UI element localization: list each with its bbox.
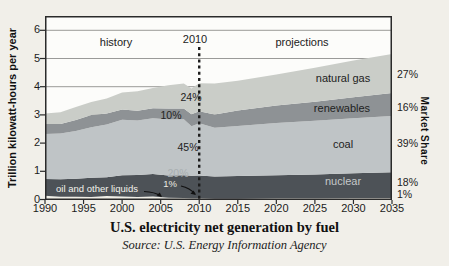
band-label-renewables: renewables [314, 103, 370, 114]
y-tick-label-2: 2 [24, 137, 40, 148]
band-label-nuclear: nuclear [325, 176, 361, 187]
divider-year-label: 2010 [183, 34, 207, 45]
chart-title: U.S. electricity net generation by fuel [0, 219, 449, 236]
chart-figure: Trillion kilowatt-hours per year history… [0, 0, 449, 266]
history-label: history [100, 37, 132, 48]
share-2010-nuclear: 20% [167, 168, 188, 179]
share-2035-natural-gas: 27% [397, 69, 418, 80]
x-tick-label-2005: 2005 [148, 203, 172, 214]
y-tick-label-6: 6 [24, 24, 40, 35]
band-label-coal: coal [333, 139, 353, 150]
y-tick-label-4: 4 [24, 81, 40, 92]
share-2035-renewables: 16% [397, 102, 418, 113]
y-tick-label-0: 0 [24, 194, 40, 205]
x-tick-label-2035: 2035 [380, 203, 404, 214]
share-2010-coal: 45% [177, 142, 198, 153]
share-2035-nuclear: 18% [397, 177, 418, 188]
y-tick-label-3: 3 [24, 109, 40, 120]
y-axis-title: Trillion kilowatt-hours per year [7, 28, 18, 188]
share-2035-coal: 39% [397, 138, 418, 149]
x-tick-label-1995: 1995 [71, 203, 95, 214]
right-axis-title: Market Share [419, 97, 429, 166]
projections-label: projections [275, 37, 328, 48]
share-2010-renewables: 10% [160, 110, 181, 121]
share-2010-natural-gas: 24% [180, 92, 201, 103]
share-2010-oil: 1% [163, 179, 177, 189]
y-tick-label-5: 5 [24, 53, 40, 64]
x-tick-label-2015: 2015 [226, 203, 250, 214]
y-tick-label-1: 1 [24, 165, 40, 176]
band-label-oil: oil and other liquids [56, 184, 138, 194]
band-label-natural-gas: natural gas [316, 73, 370, 84]
x-tick-label-2030: 2030 [341, 203, 365, 214]
share-2035-oil: 1% [397, 189, 412, 200]
chart-source: Source: U.S. Energy Information Agency [0, 238, 449, 253]
x-tick-label-2020: 2020 [264, 203, 288, 214]
x-tick-label-2025: 2025 [303, 203, 327, 214]
x-tick-label-2010: 2010 [187, 203, 211, 214]
x-tick-label-2000: 2000 [110, 203, 134, 214]
